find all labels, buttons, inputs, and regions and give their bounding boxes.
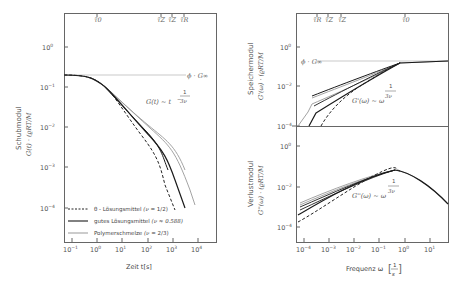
svg-text:10−4: 10−4 (277, 223, 292, 232)
y-tick-label: 100 (42, 43, 53, 52)
left-x-axis-label: Zeit t[s] (126, 263, 152, 271)
right-x-axis-label: Frequenz ω 1 s [ ] (346, 262, 402, 277)
svg-text:[: [ (388, 263, 392, 274)
left-curves (64, 75, 195, 210)
marker-tauZ1: τ̃Z (157, 16, 166, 24)
svg-text:10−2: 10−2 (277, 82, 292, 91)
right-top-frame (297, 14, 449, 127)
marker-tauR: τ̃R (313, 16, 322, 24)
x-tick-label: 101 (115, 245, 126, 254)
x-tick-label: 102 (141, 245, 152, 254)
legend-melt: Polymerschmelze (ν = 2/3) (94, 230, 169, 237)
svg-text:1: 1 (393, 262, 397, 268)
svg-text:Frequenz ω: Frequenz ω (346, 265, 383, 273)
svg-text:]: ] (398, 263, 402, 274)
curve-melt (64, 75, 195, 205)
left-y-axis: 100 10−1 10−2 10−3 10−4 (40, 43, 68, 213)
svg-text:Speichermodul: Speichermodul (247, 43, 255, 95)
right-top-markers: τ̃R τ̃Z τ̃Z τ̃0 (313, 13, 410, 24)
marker-tau0: τ̃0 (94, 16, 102, 24)
svg-text:G'(ω) ~ ω: G'(ω) ~ ω (352, 97, 385, 105)
svg-text:10−2: 10−2 (277, 183, 292, 192)
left-x-axis: 10−1 100 101 102 103 104 (63, 238, 202, 254)
svg-text:Schubmodul: Schubmodul (15, 106, 23, 150)
left-y-axis-label: Schubmodul G(t) · (ϱRT/M (15, 106, 33, 156)
left-power-law-annotation: G(t) ~ t − 1 3ν (146, 89, 190, 106)
marker-tauZ2: τ̃Z (338, 16, 347, 24)
svg-text:G''(ω) ~ ω: G''(ω) ~ ω (352, 192, 387, 200)
svg-text:10−4: 10−4 (277, 122, 292, 131)
x-tick-label: 104 (191, 245, 202, 254)
y-tick-label: 10−1 (40, 83, 55, 92)
x-tick-label: 103 (166, 245, 177, 254)
y-tick-label: 10−2 (40, 123, 55, 132)
storage-melt (298, 61, 448, 126)
svg-text:3ν: 3ν (385, 93, 392, 99)
storage-curves (298, 61, 448, 126)
x-tick-label: 100 (90, 245, 101, 254)
y-tick-label: 10−3 (40, 163, 55, 172)
right-bottom-y-axis-label: Verlustmodul G''(ω) · (ϱRT/M (247, 161, 265, 215)
svg-text:101: 101 (424, 245, 435, 254)
ginf-label-right: ϕ · G∞ (301, 58, 322, 66)
figure: τ̃0 τ̃Z τ̃Z τ̃R 100 10−1 10−2 10−3 10−4 … (0, 0, 462, 288)
svg-text:3ν: 3ν (180, 98, 187, 104)
svg-text:G(t) ~ t: G(t) ~ t (146, 98, 171, 106)
marker-tau0: τ̃0 (402, 16, 410, 24)
svg-text:100: 100 (280, 142, 291, 151)
svg-text:10−1: 10−1 (371, 245, 386, 254)
loss-good-3 (300, 170, 395, 210)
svg-text:1: 1 (389, 83, 393, 89)
svg-text:10−4: 10−4 (296, 245, 311, 254)
svg-text:G(t) · (ϱRT/M: G(t) · (ϱRT/M (25, 112, 33, 156)
legend-theta: θ - Lösungsmittel (ν = 1/2) (94, 206, 168, 213)
right-top-y-axis-label: Speichermodul G'(ω) · (ϱRT/M (247, 43, 265, 100)
svg-text:1: 1 (392, 178, 396, 184)
svg-text:10−2: 10−2 (346, 245, 361, 254)
left-panel: τ̃0 τ̃Z τ̃Z τ̃R 100 10−1 10−2 10−3 10−4 … (15, 13, 217, 271)
svg-text:10−3: 10−3 (321, 245, 336, 254)
marker-tauR: τ̃R (180, 16, 189, 24)
x-tick-label: 10−1 (63, 245, 78, 254)
svg-text:s: s (392, 271, 395, 277)
svg-text:G''(ω) · (ϱRT/M: G''(ω) · (ϱRT/M (257, 165, 265, 215)
svg-text:1: 1 (183, 89, 187, 95)
svg-text:G'(ω) · (ϱRT/M: G'(ω) · (ϱRT/M (257, 52, 265, 100)
marker-tauZ2: τ̃Z (168, 16, 177, 24)
svg-text:100: 100 (398, 245, 409, 254)
svg-text:3ν: 3ν (388, 188, 395, 194)
svg-text:Verlustmodul: Verlustmodul (247, 161, 255, 207)
curve-theta (64, 75, 175, 210)
right-x-axis: 10−4 10−3 10−2 10−1 100 101 (296, 238, 435, 254)
marker-tauZ1: τ̃Z (325, 16, 334, 24)
svg-text:100: 100 (280, 43, 291, 52)
y-tick-label: 10−4 (40, 204, 55, 213)
legend-good: gutes Lösungsmittel (ν ≈ 0.588) (94, 218, 183, 225)
right-panel: τ̃R τ̃Z τ̃Z τ̃0 100 10−2 10−4 100 10−2 1… (247, 13, 449, 277)
left-top-markers: τ̃0 τ̃Z τ̃Z τ̃R (94, 13, 189, 24)
left-legend: θ - Lösungsmittel (ν = 1/2) gutes Lösung… (68, 206, 183, 237)
ginf-label: ϕ · G∞ (187, 72, 208, 80)
